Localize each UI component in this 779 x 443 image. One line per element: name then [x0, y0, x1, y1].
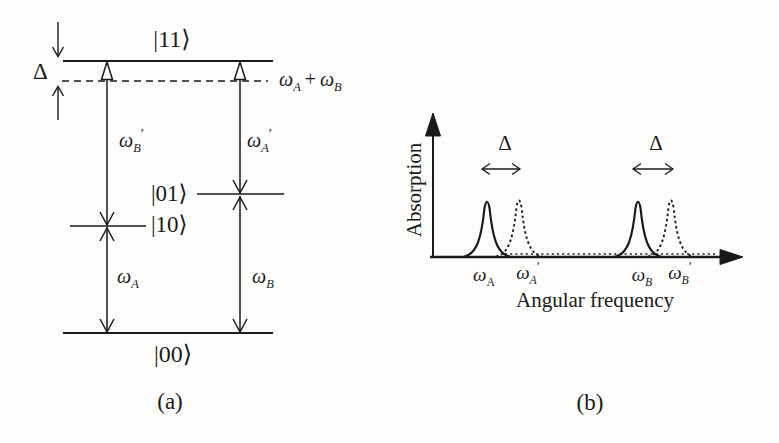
arrowhead-up-omega-a-prime: [235, 62, 246, 80]
omega-symbol: ω: [668, 262, 681, 283]
arrowhead-up-omega-b-prime: [102, 62, 113, 80]
figure-energy-levels-and-spectrum: |11⟩ Δ ωA+ωB ωB′ ωA′ |01⟩ |10⟩ ωA ωB |00…: [0, 0, 779, 443]
ket-11-label: |11⟩: [142, 27, 202, 52]
peak-omega-a-solid: [464, 202, 510, 257]
subscript: A: [131, 277, 139, 291]
omega-a-prime-label: ωA′: [247, 130, 272, 151]
subscript-a: A: [293, 80, 301, 94]
omega-symbol: ω: [117, 265, 131, 287]
subscript: B: [133, 141, 141, 155]
peak-label-omega-a-prime: ωA′: [510, 263, 546, 283]
ket-00-label: |00⟩: [143, 342, 203, 367]
omega-b-prime-label: ωB′: [119, 130, 144, 151]
prime-mark: ′: [269, 126, 272, 142]
subscript: A: [530, 274, 537, 287]
omega-symbol: ω: [119, 129, 133, 151]
subscript: A: [486, 276, 495, 289]
delta-left-label: Δ: [493, 132, 517, 154]
peak-omega-b-solid: [615, 202, 661, 257]
peak-label-omega-b-prime: ωB′: [662, 263, 698, 283]
omega-symbol: ω: [279, 68, 293, 90]
prime-mark: ′: [141, 126, 144, 142]
peak-label-omega-b: ωB: [624, 265, 660, 285]
y-axis-arrowhead: [426, 113, 441, 136]
subscript-b: B: [334, 80, 342, 94]
omega-symbol: ω: [320, 68, 334, 90]
virtual-level-label: ωA+ωB: [279, 69, 342, 90]
peak-omega-a-prime-dotted: [496, 201, 542, 257]
omega-symbol: ω: [473, 264, 486, 285]
x-axis-arrowhead: [720, 250, 743, 265]
prime-mark: ′: [537, 260, 540, 275]
subscript: B: [266, 277, 274, 291]
ket-01-label: |01⟩: [151, 182, 188, 206]
peak-omega-b-prime-dotted: [648, 201, 694, 257]
detuning-delta-label: Δ: [33, 60, 48, 84]
omega-symbol: ω: [632, 264, 645, 285]
ket-10-label: |10⟩: [151, 213, 188, 237]
figure-drawing: [0, 0, 779, 443]
subscript: A: [261, 141, 269, 155]
prime-mark: ′: [689, 260, 692, 275]
peak-label-omega-a: ωA: [466, 265, 502, 285]
omega-symbol: ω: [252, 265, 266, 287]
panel-a-caption: (a): [148, 390, 192, 414]
y-axis-label: Absorption: [403, 135, 425, 245]
subscript: B: [682, 274, 689, 287]
omega-b-label: ωB: [252, 266, 274, 287]
plus-sign: +: [305, 68, 316, 90]
delta-right-label: Δ: [644, 132, 668, 154]
omega-a-label: ωA: [117, 266, 139, 287]
omega-symbol: ω: [516, 262, 529, 283]
x-axis-label: Angular frequency: [500, 289, 690, 311]
subscript: B: [645, 276, 652, 289]
omega-symbol: ω: [247, 129, 261, 151]
panel-b-caption: (b): [568, 391, 612, 415]
